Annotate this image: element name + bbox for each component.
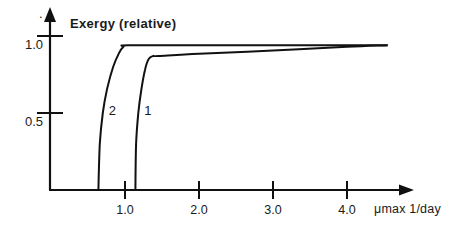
x-tick-label: 4.0 [338,203,355,217]
curve-1 [135,45,387,190]
exergy-chart: 1.02.03.04.00.51.0 21 . Exergy (relative… [0,0,470,233]
x-axis-arrow-icon [399,185,414,196]
x-tick-label: 2.0 [190,203,207,217]
curve-label: 1 [144,103,151,118]
curve-2 [98,45,387,190]
dot-mark: . [39,6,43,21]
y-tick-label: 1.0 [25,37,43,52]
y-axis-arrow-icon [44,7,56,22]
x-tick-label: 3.0 [264,203,281,217]
x-axis-label: μmax 1/day [374,202,441,216]
curve-label: 2 [109,103,116,118]
y-axis-label: Exergy (relative) [70,16,176,31]
curves: 21 [98,45,387,190]
y-tick-label: 0.5 [25,114,43,129]
x-tick-label: 1.0 [116,203,133,217]
